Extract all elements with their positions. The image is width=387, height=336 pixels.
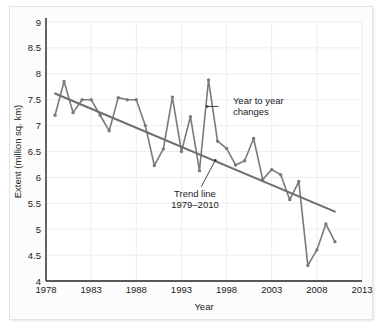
- annotation-text-line: Trend line: [174, 188, 216, 199]
- data-point-marker: [153, 164, 156, 167]
- y-tick-label: 5.5: [28, 198, 41, 209]
- annotation-leader-dot: [214, 159, 217, 162]
- data-point-marker: [71, 111, 74, 114]
- arctic-sea-ice-extent-line-chart: 44.555.566.577.588.591978198319881993199…: [0, 0, 387, 336]
- x-tick-label: 1993: [171, 284, 192, 295]
- y-axis-title: Extent (million sq. km): [12, 105, 23, 198]
- y-tick-label: 9: [36, 17, 41, 28]
- data-point-marker: [288, 198, 291, 201]
- y-tick-label: 8.5: [28, 42, 41, 53]
- y-tick-label: 7: [36, 120, 41, 131]
- data-point-marker: [117, 96, 120, 99]
- x-tick-label: 1998: [216, 284, 237, 295]
- data-point-marker: [252, 137, 255, 140]
- x-tick-label: 1983: [81, 284, 102, 295]
- x-tick-label: 2013: [351, 284, 372, 295]
- data-point-marker: [171, 95, 174, 98]
- y-tick-label: 5: [36, 224, 41, 235]
- y-tick-label: 6: [36, 172, 41, 183]
- data-point-marker: [62, 80, 65, 83]
- data-point-marker: [306, 264, 309, 267]
- data-point-marker: [243, 159, 246, 162]
- data-point-marker: [297, 180, 300, 183]
- data-point-marker: [53, 114, 56, 117]
- data-point-marker: [198, 169, 201, 172]
- y-tick-label: 6.5: [28, 146, 41, 157]
- data-point-marker: [216, 139, 219, 142]
- figure-container: 44.555.566.577.588.591978198319881993199…: [0, 0, 387, 336]
- data-point-marker: [189, 115, 192, 118]
- data-point-marker: [135, 98, 138, 101]
- x-axis-title: Year: [194, 301, 213, 312]
- data-point-marker: [324, 222, 327, 225]
- data-point-marker: [234, 163, 237, 166]
- data-point-marker: [162, 147, 165, 150]
- annotation-text-line: Year to year: [233, 95, 284, 106]
- annotation-text-line: 1979–2010: [171, 199, 219, 210]
- x-tick-label: 1988: [126, 284, 147, 295]
- data-point-marker: [225, 147, 228, 150]
- data-point-marker: [126, 98, 129, 101]
- y-tick-label: 4.5: [28, 250, 41, 261]
- data-point-marker: [279, 173, 282, 176]
- data-point-marker: [89, 98, 92, 101]
- x-tick-label: 1978: [35, 284, 56, 295]
- annotation-leader-dot: [206, 105, 209, 108]
- x-tick-label: 2003: [261, 284, 282, 295]
- data-point-marker: [333, 240, 336, 243]
- data-point-marker: [80, 98, 83, 101]
- data-point-marker: [108, 129, 111, 132]
- data-point-marker: [144, 124, 147, 127]
- y-tick-label: 8: [36, 68, 41, 79]
- x-tick-label: 2008: [306, 284, 327, 295]
- y-tick-label: 7.5: [28, 94, 41, 105]
- data-point-marker: [270, 168, 273, 171]
- data-point-marker: [207, 78, 210, 81]
- data-point-marker: [180, 150, 183, 153]
- annotation-text-line: changes: [233, 106, 269, 117]
- data-point-marker: [315, 248, 318, 251]
